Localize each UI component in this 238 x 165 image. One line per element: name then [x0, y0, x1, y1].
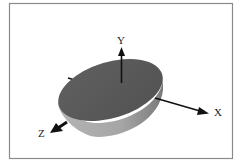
x-axis-arrow	[155, 98, 209, 115]
x-axis-label: X	[214, 106, 222, 118]
z-axis-arrow	[50, 122, 67, 133]
z-axis-label: Z	[38, 127, 45, 139]
diagram-frame: Y X Z	[0, 0, 238, 165]
ellipsoid-axes-diagram: Y X Z	[0, 0, 238, 165]
y-axis-label: Y	[117, 34, 125, 46]
